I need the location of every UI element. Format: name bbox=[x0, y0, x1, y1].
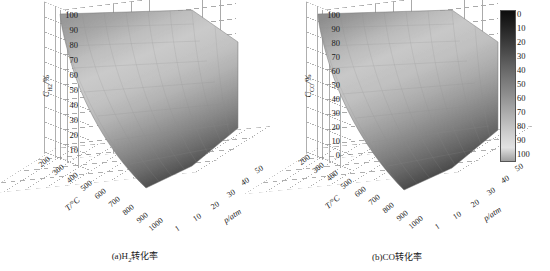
plot-area-b: 100 90 80 70 60 50 40 30 20 10 0 CCO/% 2… bbox=[304, 8, 509, 198]
panel-a-h2-conversion: 100 90 80 70 60 50 40 30 20 10 CH2/% 200… bbox=[0, 0, 270, 271]
figure-3d-conversion-surfaces: 100 90 80 70 60 50 40 30 20 10 CH2/% 200… bbox=[0, 0, 550, 271]
colorbar: 0 10 20 30 40 50 60 70 80 90 100 bbox=[500, 10, 546, 178]
p-axis-label-b: p/atm bbox=[481, 204, 503, 223]
p-axis-ticks-a: 1 10 20 30 40 50 p/atm bbox=[42, 8, 272, 223]
colorbar-tick-labels: 0 10 20 30 40 50 60 70 80 90 100 bbox=[517, 10, 545, 170]
panel-b-caption: (b)CO转化率 bbox=[262, 250, 532, 263]
panel-b-co-conversion: 100 90 80 70 60 50 40 30 20 10 0 CCO/% 2… bbox=[262, 0, 532, 271]
plot-area-a: 100 90 80 70 60 50 40 30 20 10 CH2/% 200… bbox=[42, 8, 247, 198]
p-axis-label-a: p/atm bbox=[221, 206, 243, 225]
colorbar-gradient-strip bbox=[500, 10, 516, 162]
panel-a-caption: (a)H2转化率 bbox=[0, 249, 270, 263]
